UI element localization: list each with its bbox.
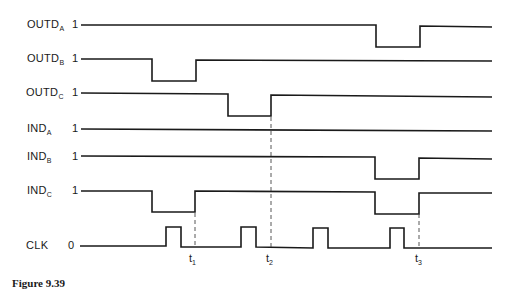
- timing-waveforms: [0, 0, 518, 293]
- waveform-ind-b: [81, 156, 492, 179]
- waveform-outd-b: [81, 59, 492, 81]
- waveform-clk: [80, 227, 492, 248]
- waveform-ind-a: [81, 129, 492, 131]
- waveform-ind-c: [81, 191, 492, 214]
- waveform-outd-a: [81, 25, 492, 47]
- waveform-outd-c: [81, 93, 492, 116]
- figure-caption: Figure 9.39: [12, 277, 65, 289]
- time-label-t1: t1: [189, 252, 196, 266]
- time-label-t3: t3: [415, 252, 422, 266]
- time-label-t2: t2: [266, 252, 273, 266]
